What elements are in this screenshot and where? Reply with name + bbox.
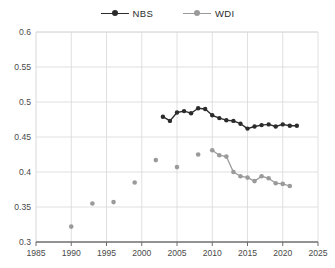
data-point <box>210 148 215 153</box>
gridlines <box>36 32 318 242</box>
data-point <box>196 106 200 110</box>
data-point <box>161 115 165 119</box>
data-point <box>189 111 193 115</box>
data-point <box>288 124 292 128</box>
x-tick-label: 1990 <box>62 248 81 258</box>
x-axis-ticks: 198519901995200020052010201520202025 <box>26 242 327 258</box>
data-point <box>217 153 222 158</box>
data-point <box>266 122 270 126</box>
data-point <box>295 124 299 128</box>
chart-container: NBS WDI 0.30.350.40.450.50.550.6 1985199… <box>0 0 335 268</box>
y-axis-ticks: 0.30.350.40.450.50.550.6 <box>14 27 31 247</box>
y-tick-label: 0.35 <box>14 202 31 212</box>
data-point <box>252 124 256 128</box>
data-point <box>90 201 95 206</box>
x-tick-label: 1985 <box>26 248 45 258</box>
data-point <box>252 179 257 184</box>
data-point <box>132 180 137 185</box>
data-point <box>175 165 180 170</box>
data-point <box>231 119 235 123</box>
data-point <box>274 124 278 128</box>
y-tick-label: 0.4 <box>19 167 31 177</box>
data-point <box>238 122 242 126</box>
y-tick-label: 0.55 <box>14 62 31 72</box>
data-point <box>231 170 236 175</box>
x-tick-label: 2010 <box>203 248 222 258</box>
data-point <box>154 158 159 163</box>
data-point <box>245 126 249 130</box>
data-point <box>69 224 74 229</box>
y-tick-label: 0.6 <box>19 27 31 37</box>
y-tick-label: 0.3 <box>19 237 31 247</box>
data-point <box>175 110 179 114</box>
data-point <box>259 123 263 127</box>
y-tick-label: 0.45 <box>14 132 31 142</box>
data-point <box>245 175 250 180</box>
data-point <box>238 174 243 179</box>
x-tick-label: 2000 <box>132 248 151 258</box>
data-point <box>217 116 221 120</box>
plot-area: 0.30.350.40.450.50.550.6 198519901995200… <box>0 0 335 268</box>
series-nbs <box>161 106 299 131</box>
data-point <box>273 181 278 186</box>
data-point <box>182 109 186 113</box>
y-tick-label: 0.5 <box>19 97 31 107</box>
x-tick-label: 2020 <box>273 248 292 258</box>
data-point <box>196 152 201 157</box>
data-point <box>288 184 293 189</box>
data-point <box>259 174 264 179</box>
data-point <box>203 107 207 111</box>
data-point <box>111 200 116 205</box>
data-point <box>210 113 214 117</box>
series-wdi <box>69 148 292 229</box>
x-tick-label: 2025 <box>308 248 327 258</box>
data-point <box>224 118 228 122</box>
x-tick-label: 1995 <box>97 248 116 258</box>
data-point <box>281 122 285 126</box>
data-point <box>168 119 172 123</box>
data-point <box>280 182 285 187</box>
data-point <box>266 176 271 181</box>
x-tick-label: 2005 <box>167 248 186 258</box>
data-point <box>224 154 229 159</box>
x-tick-label: 2015 <box>238 248 257 258</box>
